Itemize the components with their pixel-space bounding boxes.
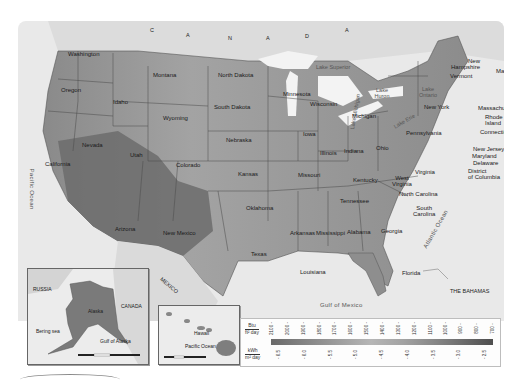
state-delaware: Delaware <box>473 160 498 166</box>
bahamas-label: THE BAHAMAS <box>450 289 489 295</box>
solar-radiation-legend: Btu ft² day kWh m² day 2100 -2000 -1900 … <box>240 318 501 367</box>
hawaii-inset: Hawaii Pacific Ocean <box>158 305 240 365</box>
kwh-tick: - 4.5 <box>379 350 384 359</box>
state-nevada: Nevada <box>82 142 103 148</box>
state-maryland: Maryland <box>472 153 497 159</box>
state-georgia: Georgia <box>381 228 402 234</box>
state-idaho: Idaho <box>113 99 128 105</box>
btu-unit: Btu ft² day <box>245 323 259 335</box>
lake-ontario-label: Lake Ontario <box>416 87 440 98</box>
state-virginia: Virginia <box>415 169 435 175</box>
state-nebraska: Nebraska <box>226 137 252 143</box>
state-kentucky: Kentucky <box>353 177 378 183</box>
state-north-carolina: North Carolina <box>399 191 438 197</box>
state-illinois: Illinois <box>320 150 337 156</box>
btu-tick: 1400 - <box>380 322 385 335</box>
state-connecticut: Connecticut <box>480 129 504 135</box>
state-indiana: Indiana <box>344 148 364 154</box>
state-massachusetts: Massachusetts <box>478 105 504 111</box>
kwh-tick: - 5.0 <box>353 350 358 359</box>
alaska-label: Alaska <box>88 309 103 314</box>
state-montana: Montana <box>153 72 176 78</box>
state-south-carolina-line2: Carolina <box>413 211 435 217</box>
gulf-of-alaska-label: Gulf of Alaska <box>100 339 131 344</box>
kwh-tick: - 5.5 <box>328 350 333 359</box>
state-new-york: New York <box>424 104 449 110</box>
btu-tick: 1000 - <box>443 322 448 335</box>
state-district-of-columbia: Districtof Columbia <box>468 168 500 180</box>
btu-tick: 1300 - <box>396 322 401 335</box>
state-florida: Florida <box>402 270 420 276</box>
state-alabama: Alabama <box>347 229 371 235</box>
kwh-tick: - 3.0 <box>456 350 461 359</box>
canada-label-d: D <box>305 34 309 40</box>
btu-tick: 1200 - <box>412 322 417 335</box>
state-south-carolina: SouthCarolina <box>413 205 435 217</box>
btu-tick: 1500 - <box>364 322 369 335</box>
kwh-tick: - 6.0 <box>302 350 307 359</box>
btu-tick: 1600 - <box>348 322 353 335</box>
state-new-jersey: New Jersey <box>473 146 504 152</box>
btu-tick: 1100 - <box>427 322 432 334</box>
btu-unit-denominator: ft² day <box>245 329 259 335</box>
state-west-virginia: WestVirginia <box>392 175 412 187</box>
btu-tick: 2100 - <box>269 322 274 335</box>
kwh-unit-denominator: m² day <box>245 354 260 360</box>
hawaii-pacific-label: Pacific Ocean <box>185 344 216 349</box>
pacific-ocean-label: Pacific Ocean <box>29 169 35 210</box>
btu-tick: 1900 - <box>301 322 306 335</box>
state-michigan: Michigan <box>352 113 376 119</box>
page-curl-shadow <box>20 374 120 385</box>
kwh-tick: - 3.5 <box>431 350 436 359</box>
btu-tick: 700 - <box>490 323 495 333</box>
russia-label: RUSSIA <box>33 287 52 292</box>
alaska-map-graphic <box>28 269 148 364</box>
state-california: California <box>45 161 70 167</box>
state-rhode-island: RhodeIsland <box>485 114 503 126</box>
btu-tick: 1800 - <box>316 322 321 335</box>
kwh-tick: - 6.5 <box>276 350 281 359</box>
state-ohio: Ohio <box>376 145 389 151</box>
state-south-dakota: South Dakota <box>214 104 250 110</box>
state-texas: Texas <box>251 251 267 257</box>
state-vermont: Vermont <box>450 73 472 79</box>
state-arizona: Arizona <box>115 226 135 232</box>
btu-tick: 800 - <box>474 323 479 333</box>
gulf-of-mexico-label: Gulf of Mexico <box>320 302 363 308</box>
state-missouri: Missouri <box>298 172 320 178</box>
kwh-tick: - 2.5 <box>482 350 487 359</box>
state-oklahoma: Oklahoma <box>246 205 273 211</box>
btu-tick: 900 - <box>458 323 463 333</box>
alaska-inset: RUSSIA CANADA Alaska Bering sea Gulf of … <box>27 268 149 365</box>
kwh-tick: - 4.0 <box>405 350 410 359</box>
state-west-virginia-line2: Virginia <box>392 181 412 187</box>
state-wisconsin: Wisconsin <box>310 101 337 107</box>
state-arkansas: Arkansas <box>290 230 315 236</box>
canada-label-a3: A <box>345 28 349 34</box>
state-maine: Maine <box>496 68 504 74</box>
state-wyoming: Wyoming <box>163 115 188 121</box>
dc-line2: of Columbia <box>468 174 500 180</box>
lake-superior-label: Lake Superior <box>316 65 350 71</box>
canada-label-n: N <box>228 36 232 42</box>
state-new-hampshire: NewHampshire <box>451 58 480 70</box>
canada-label-a2: A <box>266 36 270 42</box>
state-kansas: Kansas <box>238 171 258 177</box>
state-mississippi: Mississippi <box>316 230 345 236</box>
lake-huron-label: Lake Huron <box>372 88 392 99</box>
canada-label-c: C <box>150 28 154 34</box>
state-iowa: Iowa <box>303 131 316 137</box>
state-colorado: Colorado <box>176 162 200 168</box>
inset-canada-label: CANADA <box>121 304 142 309</box>
bering-sea-label: Bering sea <box>36 329 60 334</box>
state-north-dakota: North Dakota <box>218 72 253 78</box>
color-scale-bar <box>271 339 493 345</box>
hawaii-label: Hawaii <box>194 331 209 336</box>
state-tennessee: Tennessee <box>340 198 369 204</box>
kwh-unit: kWh m² day <box>245 348 260 360</box>
state-washington: Washington <box>68 51 99 57</box>
state-rhode-island-line2: Island <box>485 120 501 126</box>
btu-tick: 2000 - <box>285 322 290 335</box>
state-new-mexico: New Mexico <box>163 230 196 236</box>
btu-tick: 1700 - <box>332 322 337 335</box>
